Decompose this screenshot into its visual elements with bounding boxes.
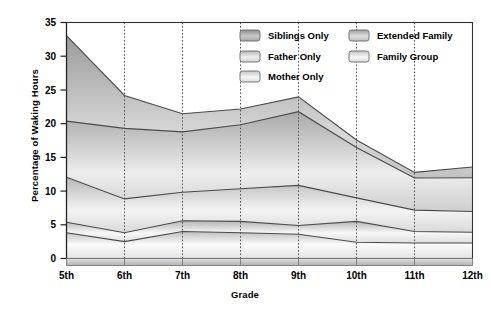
y-tick-label-15: 15	[45, 152, 57, 163]
legend-swatch-father-only	[240, 51, 260, 62]
y-tick-label-35: 35	[45, 17, 57, 28]
y-tick-label-10: 10	[45, 186, 57, 197]
x-axis-bar	[67, 259, 473, 266]
legend-item-extended-family[interactable]: Extended Family	[349, 30, 453, 41]
legend-swatch-family-group	[349, 51, 369, 62]
legend-label-family-group: Family Group	[377, 51, 438, 62]
area-chart-svg: 0 5 10 15 20 25 30 35 5th 6th 7th 8th 9t…	[0, 0, 491, 309]
x-tick-label-9th: 9th	[291, 270, 306, 281]
x-axis-title: Grade	[231, 289, 259, 300]
legend-item-family-group[interactable]: Family Group	[349, 51, 438, 62]
y-tick-label-30: 30	[45, 51, 57, 62]
legend-swatch-mother-only	[240, 71, 260, 82]
x-tick-label-5th: 5th	[59, 270, 74, 281]
x-tick-label-11th: 11th	[404, 270, 424, 281]
y-tick-label-0: 0	[50, 253, 56, 264]
legend-item-father-only[interactable]: Father Only	[240, 51, 322, 62]
chart-figure: Percentage of Waking Hours	[0, 0, 491, 309]
y-tick-label-20: 20	[45, 118, 57, 129]
legend-label-mother-only: Mother Only	[268, 71, 324, 82]
x-tick-label-10th: 10th	[346, 270, 367, 281]
x-tick-label-12th: 12th	[462, 270, 483, 281]
legend-swatch-siblings-only	[240, 30, 260, 41]
y-tick-label-25: 25	[45, 85, 57, 96]
legend-item-siblings-only[interactable]: Siblings Only	[240, 30, 329, 41]
legend-label-father-only: Father Only	[268, 51, 322, 62]
y-tick-label-5: 5	[50, 219, 56, 230]
x-tick-label-8th: 8th	[233, 270, 248, 281]
x-tick-label-6th: 6th	[117, 270, 132, 281]
legend-swatch-extended-family	[349, 30, 369, 41]
legend-item-mother-only[interactable]: Mother Only	[240, 71, 324, 82]
legend-label-extended-family: Extended Family	[377, 30, 453, 41]
x-tick-label-7th: 7th	[175, 270, 190, 281]
legend-label-siblings-only: Siblings Only	[268, 30, 329, 41]
